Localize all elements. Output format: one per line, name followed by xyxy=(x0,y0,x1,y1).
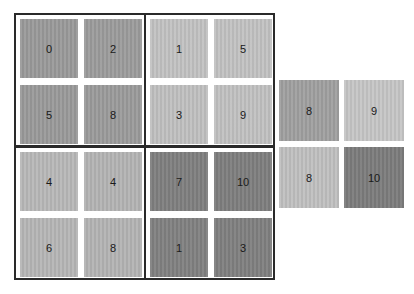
tile-label: 6 xyxy=(46,242,52,254)
separate-tile: 8 xyxy=(279,147,339,208)
tile-label: 8 xyxy=(306,105,312,117)
separate-tile: 10 xyxy=(344,147,404,208)
tile: 1 xyxy=(150,19,208,78)
tile: 1 xyxy=(150,218,208,277)
tile-label: 9 xyxy=(371,105,377,117)
tile: 8 xyxy=(84,85,142,144)
tile-label: 8 xyxy=(110,109,116,121)
separate-tile: 9 xyxy=(344,80,404,141)
tile: 8 xyxy=(84,218,142,277)
tile-label: 3 xyxy=(176,109,182,121)
tile-label: 5 xyxy=(46,109,52,121)
group-top-right: 1539 xyxy=(144,13,275,147)
tile-label: 0 xyxy=(46,43,52,55)
tile-label: 1 xyxy=(176,242,182,254)
tile-label: 5 xyxy=(240,43,246,55)
tile: 5 xyxy=(214,19,272,78)
group-top-left: 0258 xyxy=(14,13,146,147)
tile-label: 3 xyxy=(240,242,246,254)
tile-label: 10 xyxy=(368,172,380,184)
group-bottom-right: 71013 xyxy=(144,146,275,280)
tile: 7 xyxy=(150,152,208,211)
tile-label: 4 xyxy=(110,176,116,188)
tile: 4 xyxy=(20,152,78,211)
tile-label: 8 xyxy=(110,242,116,254)
tile: 3 xyxy=(214,218,272,277)
tile-label: 10 xyxy=(237,176,249,188)
tile-label: 2 xyxy=(110,43,116,55)
tile-label: 7 xyxy=(176,176,182,188)
tile-label: 8 xyxy=(306,172,312,184)
tile-label: 1 xyxy=(176,43,182,55)
separate-tile: 8 xyxy=(279,80,339,141)
tile: 10 xyxy=(214,152,272,211)
tile: 6 xyxy=(20,218,78,277)
group-bottom-left: 4468 xyxy=(14,146,146,280)
tile: 9 xyxy=(214,85,272,144)
tile: 3 xyxy=(150,85,208,144)
tile: 5 xyxy=(20,85,78,144)
tile: 4 xyxy=(84,152,142,211)
tile: 0 xyxy=(20,19,78,78)
tile-label: 4 xyxy=(46,176,52,188)
tile: 2 xyxy=(84,19,142,78)
tile-label: 9 xyxy=(240,109,246,121)
